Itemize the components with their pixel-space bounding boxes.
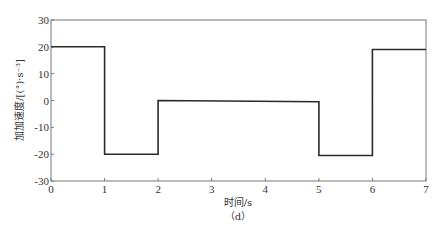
x-tick-label: 4 <box>263 183 269 195</box>
y-tick-label: -20 <box>34 148 49 160</box>
x-tick-label: 5 <box>316 183 322 195</box>
series-line-jerk <box>51 47 426 156</box>
x-tick-label: 3 <box>209 183 215 195</box>
y-tick-label: 20 <box>38 41 50 53</box>
y-tick-label: -30 <box>34 175 49 187</box>
chart-canvas: 01234567 3020100-10-20-30 时间/s （d） 加加速度/… <box>0 0 441 233</box>
figure-caption: （d） <box>225 211 251 222</box>
y-tick-label: 0 <box>44 95 50 107</box>
y-axis-label: 加加速度/[(°)·s⁻³] <box>13 59 25 141</box>
y-tick-label: 30 <box>38 14 50 26</box>
x-tick-label: 1 <box>102 183 108 195</box>
y-tick-label: -10 <box>34 121 49 133</box>
x-tick-label: 6 <box>370 183 376 195</box>
x-tick-label: 0 <box>48 183 54 195</box>
y-tick-label: 10 <box>38 68 50 80</box>
x-tick-label: 2 <box>155 183 161 195</box>
x-tick-label: 7 <box>423 183 429 195</box>
x-axis-label: 时间/s <box>224 196 253 208</box>
